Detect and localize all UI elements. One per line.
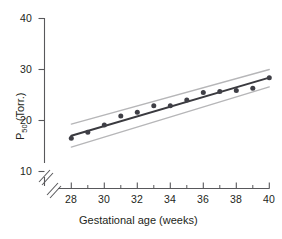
data-point: [250, 86, 255, 91]
y-axis-title-subscript: 50: [20, 124, 29, 132]
y-axis-title-base: P: [14, 133, 26, 140]
lower-confidence-band: [71, 87, 269, 147]
y-axis-break-icon: [39, 170, 53, 185]
x-tick-label-28: 28: [65, 193, 77, 205]
data-point: [234, 88, 239, 93]
data-point: [102, 123, 107, 128]
upper-confidence-band: [71, 70, 269, 125]
x-tick-label-30: 30: [98, 193, 110, 205]
y-tick-label-10: 10: [20, 165, 32, 177]
y-axis-title-unit: (Torr.): [14, 93, 26, 125]
figure: 40 30 20 10 28 30 32 34 36 38 40 P50 (To…: [0, 0, 282, 239]
x-tick-label-36: 36: [197, 193, 209, 205]
x-tick-label-32: 32: [131, 193, 143, 205]
data-point: [85, 130, 90, 135]
y-tick-marks: [39, 19, 45, 172]
y-tick-label-30: 30: [20, 63, 32, 75]
x-tick-label-40: 40: [263, 193, 275, 205]
data-point: [267, 75, 272, 80]
data-point: [168, 103, 173, 108]
x-axis-title: Gestational age (weeks): [79, 214, 198, 226]
x-tick-label-34: 34: [164, 193, 176, 205]
data-point: [118, 113, 123, 118]
data-point: [151, 103, 156, 108]
data-point: [135, 110, 140, 115]
x-axis-break-icon: [47, 183, 61, 198]
data-point: [69, 136, 74, 141]
confidence-bands: [71, 70, 269, 148]
x-tick-label-38: 38: [230, 193, 242, 205]
x-tick-marks: [71, 183, 269, 189]
data-point: [201, 90, 206, 95]
data-point: [184, 98, 189, 103]
y-axis-title: P50 (Torr.): [14, 93, 29, 140]
data-point: [217, 89, 222, 94]
y-tick-label-40: 40: [20, 12, 32, 24]
